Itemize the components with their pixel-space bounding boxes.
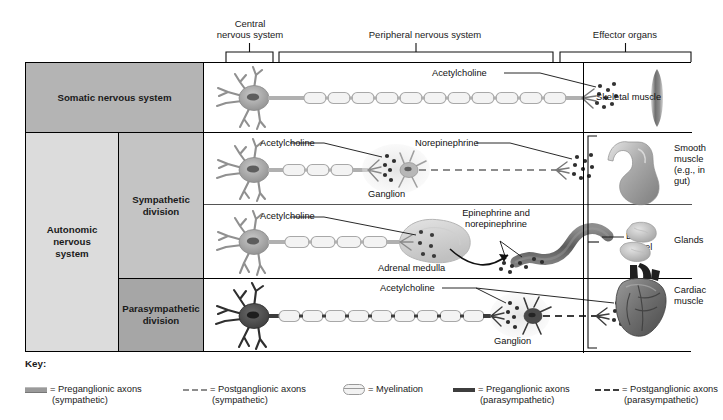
effector-column-divider xyxy=(583,63,584,353)
key-item-myelination: = Myelination xyxy=(343,384,453,395)
row-label-parasympathetic-text: Parasympathetic division xyxy=(122,303,200,327)
effector-label-cardiac-muscle: Cardiac muscle xyxy=(674,285,706,307)
effector-label-smooth-muscle: Smooth muscle (e.g., in gut) xyxy=(674,143,706,187)
key-item-sub-text: (parasympathetic) xyxy=(453,395,613,406)
somatic-neurotransmitter-label: Acetylcholine xyxy=(432,68,487,79)
heart-icon xyxy=(608,263,674,343)
key-item-sub-text: (sympathetic) xyxy=(25,395,175,406)
parasympathetic-ganglion-label: Ganglion xyxy=(494,336,531,347)
adrenal-hormones-label: Epinephrine and norepinephrine xyxy=(436,208,556,229)
preganglionic-parasympathetic-swatch-icon xyxy=(453,388,475,392)
key-item-main-text: = Myelination xyxy=(368,384,423,395)
somatic-effector-label: Skeletal muscle xyxy=(596,92,661,103)
key-title: Key: xyxy=(25,358,705,369)
key-item-preganglionic-parasympathetic: = Preganglionic axons (parasympathetic) xyxy=(453,384,613,406)
pathway-table: Somatic nervous system Autonomic nervous… xyxy=(25,62,691,352)
key-item-main-text: = Preganglionic axons xyxy=(478,384,570,395)
row-label-sympathetic-text: Sympathetic division xyxy=(132,194,190,218)
postganglionic-parasympathetic-swatch-icon xyxy=(595,389,619,391)
key-legend: Key: = Preganglionic axons (sympathetic)… xyxy=(25,358,705,416)
parasympathetic-pre-nt-label: Acetylcholine xyxy=(380,283,435,294)
postganglionic-sympathetic-swatch-icon xyxy=(183,389,207,391)
diagram-row-somatic: Acetylcholine Skeletal muscle xyxy=(204,63,692,133)
adrenal-pre-nt-label: Acetylcholine xyxy=(260,211,315,222)
row-label-somatic-text: Somatic nervous system xyxy=(57,92,171,104)
stomach-icon xyxy=(608,139,670,211)
adrenal-medulla-label: Adrenal medulla xyxy=(378,263,445,274)
key-item-main-text: = Postganglionic axons xyxy=(622,384,718,395)
preganglionic-sympathetic-swatch-icon xyxy=(25,387,47,393)
key-item-sub-text: (parasympathetic) xyxy=(595,395,723,406)
effector-bracket xyxy=(586,135,606,349)
row-label-somatic: Somatic nervous system xyxy=(26,63,204,133)
sympathetic-pre-nt-label: Acetylcholine xyxy=(260,138,315,149)
key-item-sub-text: (sympathetic) xyxy=(183,395,333,406)
key-item-preganglionic-sympathetic: = Preganglionic axons (sympathetic) xyxy=(25,384,175,406)
effector-label-glands: Glands xyxy=(674,235,703,246)
key-item-postganglionic-sympathetic: = Postganglionic axons (sympathetic) xyxy=(183,384,333,406)
row-label-sympathetic: Sympathetic division xyxy=(119,133,204,279)
row-label-autonomic: Autonomic nervous system xyxy=(26,133,119,351)
key-item-main-text: = Preganglionic axons xyxy=(50,384,142,395)
row-label-parasympathetic: Parasympathetic division xyxy=(119,279,204,351)
myelination-swatch-icon xyxy=(343,384,365,395)
header-brackets xyxy=(0,0,717,62)
key-item-main-text: = Postganglionic axons xyxy=(210,384,306,395)
glands-icon xyxy=(618,220,670,264)
key-item-postganglionic-parasympathetic: = Postganglionic axons (parasympathetic) xyxy=(595,384,723,406)
row-label-autonomic-text: Autonomic nervous system xyxy=(47,224,98,260)
sympathetic-ganglion-label: Ganglion xyxy=(368,189,405,200)
sympathetic-post-nt-label: Norepinephrine xyxy=(415,138,479,149)
